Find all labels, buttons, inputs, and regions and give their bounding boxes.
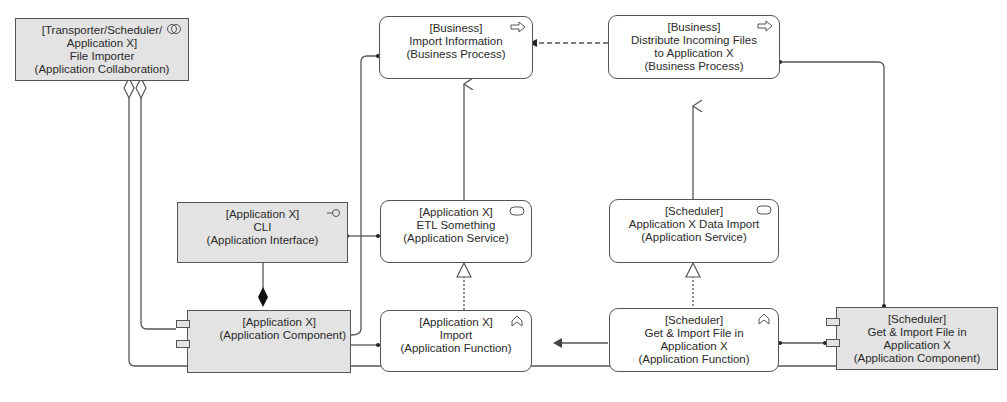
node-label: [Application X]: [419, 316, 493, 329]
node-etl-something[interactable]: [Application X] ETL Something (Applicati…: [380, 200, 532, 263]
node-label: [Scheduler]: [888, 313, 946, 326]
node-cli[interactable]: [Application X] CLI (Application Interfa…: [177, 202, 348, 263]
node-label: (Application Component): [854, 352, 981, 365]
node-file-importer[interactable]: [Transporter/Scheduler/ Application X] F…: [15, 18, 189, 81]
component-port-icon: [176, 340, 190, 348]
node-label: Distribute Incoming Files: [631, 34, 757, 47]
node-get-import-function[interactable]: [Scheduler] Get & Import File in Applica…: [609, 308, 779, 372]
node-label: (Application Component): [219, 329, 346, 342]
process-arrow-icon: [510, 21, 526, 33]
node-scheduler-component[interactable]: [Scheduler] Get & Import File in Applica…: [836, 307, 998, 370]
node-label: [Scheduler]: [665, 314, 723, 327]
component-port-icon: [176, 320, 190, 328]
node-label: [Application X]: [419, 206, 493, 219]
assignment-line-4: [780, 62, 884, 306]
service-pill-icon: [756, 204, 772, 216]
node-label: Import: [440, 329, 473, 342]
service-pill-icon: [509, 205, 525, 217]
node-label: (Application Function): [400, 342, 511, 355]
node-label: File Importer: [70, 50, 135, 63]
node-label: Import Information: [409, 35, 502, 48]
component-port-icon: [826, 318, 840, 326]
node-app-x-component[interactable]: [Application X] (Application Component): [187, 310, 351, 373]
node-label: CLI: [254, 221, 272, 234]
interface-lollipop-icon: [325, 207, 341, 219]
node-label: Application X]: [67, 37, 137, 50]
function-chevron-icon: [756, 313, 772, 325]
node-label: (Application Service): [641, 231, 746, 244]
assignment-line-1: [351, 56, 378, 335]
node-label: Application X Data Import: [629, 218, 759, 231]
component-port-icon: [826, 339, 840, 347]
node-label: Application X: [660, 340, 727, 353]
node-label: [Application X]: [242, 316, 346, 329]
node-label: Application X: [883, 339, 950, 352]
node-label: [Transporter/Scheduler/: [42, 24, 162, 37]
aggregation-diamond-1: [124, 78, 134, 98]
node-label: [Business]: [429, 22, 482, 35]
node-label: [Application X]: [226, 208, 300, 221]
composition-diamond: [258, 287, 268, 307]
archimate-diagram: [Transporter/Scheduler/ Application X] F…: [0, 0, 1007, 402]
node-import-information[interactable]: [Business] Import Information (Business …: [379, 16, 533, 79]
node-data-import-service[interactable]: [Scheduler] Application X Data Import (A…: [609, 199, 779, 263]
triggering-arrowhead: [553, 338, 562, 348]
node-label: ETL Something: [417, 219, 496, 232]
collaboration-icon: [166, 23, 182, 35]
function-chevron-icon: [509, 315, 525, 327]
realization-triangle-1: [457, 263, 471, 277]
aggregation-diamond-2: [136, 78, 146, 98]
node-label: to Application X: [654, 47, 733, 60]
node-import-function[interactable]: [Application X] Import (Application Func…: [380, 310, 532, 372]
node-label: [Business]: [667, 21, 720, 34]
node-label: (Business Process): [644, 60, 743, 73]
process-arrow-icon: [757, 20, 773, 32]
node-label: (Application Collaboration): [35, 63, 170, 76]
node-label: (Application Service): [403, 232, 508, 245]
node-label: Get & Import File in: [644, 327, 743, 340]
node-label: (Application Interface): [207, 234, 319, 247]
node-label: (Application Function): [638, 353, 749, 366]
node-distribute-incoming-files[interactable]: [Business] Distribute Incoming Files to …: [608, 15, 780, 79]
node-label: [Scheduler]: [665, 205, 723, 218]
aggregation-line-2: [141, 98, 176, 329]
node-label: Get & Import File in: [867, 326, 966, 339]
realization-triangle-2: [686, 263, 700, 277]
node-label: (Business Process): [406, 48, 505, 61]
